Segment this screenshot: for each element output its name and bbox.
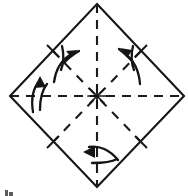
- fold-arrow-left: [32, 76, 47, 112]
- center-point-marks: [88, 87, 106, 105]
- cropped-caption-mark: [5, 190, 13, 196]
- fold-arrow-upper-right: [119, 46, 140, 84]
- fold-arrow-bottom: [83, 146, 118, 163]
- diagram-canvas: [0, 0, 188, 196]
- origami-fold-diagram: Square sheet rotated as a diamond with f…: [0, 0, 188, 196]
